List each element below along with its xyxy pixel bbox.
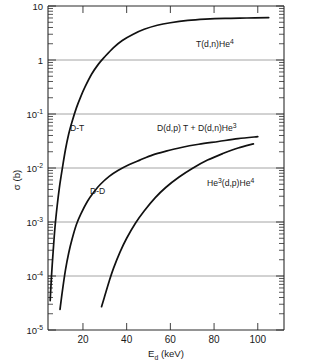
- cross-section-vs-deuteron-energy-chart: 10 1 10-1 10-2 10-3 10-4 10-5 2040608010…: [0, 0, 324, 363]
- ytick-label-10: 10: [32, 1, 43, 12]
- yaxis-title: σ (b): [11, 170, 22, 190]
- xtick-label-20: 20: [77, 334, 89, 345]
- label-d-d: D-D: [90, 186, 105, 196]
- label-he3-dp-he4: He3(d,p)He4: [207, 177, 254, 189]
- xtick-label-40: 40: [121, 334, 133, 345]
- label-ddp-t-ddn-he3: D(d,p) T + D(d,n)He3: [157, 122, 237, 134]
- chart-background: [0, 0, 324, 363]
- figure-container: 10 1 10-1 10-2 10-3 10-4 10-5 2040608010…: [0, 0, 324, 363]
- xtick-label-100: 100: [249, 334, 266, 345]
- ytick-label-1: 1: [38, 55, 43, 66]
- label-tdn-he4: T(d,n)He4: [196, 38, 234, 50]
- label-d-t: D-T: [70, 123, 85, 133]
- xtick-label-60: 60: [165, 334, 177, 345]
- xtick-label-80: 80: [209, 334, 221, 345]
